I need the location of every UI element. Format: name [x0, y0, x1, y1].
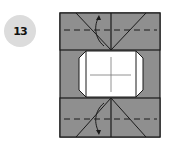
- top-flap: [60, 13, 160, 50]
- bottom-flap: [60, 98, 160, 137]
- origami-diagram: [0, 0, 170, 146]
